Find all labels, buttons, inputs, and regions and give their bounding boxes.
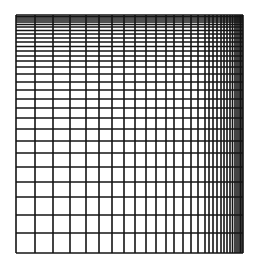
mesh-grid <box>0 0 254 266</box>
background <box>0 0 254 266</box>
